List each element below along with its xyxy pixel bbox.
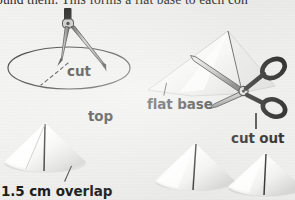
- scissors-handle-arm-lower: [247, 95, 263, 103]
- compass-needle-leg: [59, 27, 69, 64]
- scissors-handle-loop-upper: [259, 55, 288, 82]
- compass-needle-tip: [57, 58, 62, 67]
- compass-head: [64, 8, 72, 20]
- cone-seam-line: [44, 124, 45, 171]
- scanned-figure-page: ound them. This forms a flat base to eac…: [0, 0, 295, 200]
- label-top: top: [88, 108, 113, 124]
- finished-cone-illustration: [218, 150, 295, 200]
- radius-dashed-line: [41, 63, 68, 85]
- compass-drawing-circle-illustration: [0, 8, 150, 100]
- body-text-line: ound them. This forms a flat base to eac…: [0, 0, 248, 8]
- cut-out-leader-line: [255, 113, 257, 129]
- label-cut: cut: [67, 63, 91, 79]
- scissors-handle-loop-lower: [260, 96, 287, 120]
- compass-hinge-pin: [66, 22, 69, 25]
- label-flat-base: flat base: [147, 96, 213, 112]
- label-cut-out: cut out: [231, 130, 284, 146]
- label-overlap: 1.5 cm overlap: [1, 183, 112, 199]
